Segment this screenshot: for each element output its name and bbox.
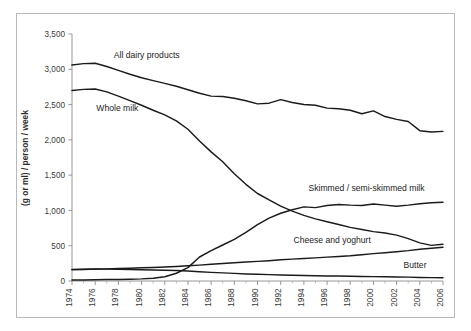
y-tick-label: 500 [51, 242, 65, 251]
x-tick-label: 1996 [320, 288, 329, 307]
y-axis-title: (g or ml) / person / week [20, 110, 30, 206]
chart-figure: 05001,0001,5002,0002,5003,0003,500 19741… [0, 0, 471, 331]
y-axis-ticks: 05001,0001,5002,0002,5003,0003,500 [45, 30, 73, 286]
y-tick-label: 0 [60, 277, 65, 286]
y-tick-label: 1,500 [45, 171, 66, 180]
y-tick-label: 2,500 [45, 101, 66, 110]
data-series [72, 63, 443, 280]
x-tick-label: 1988 [227, 288, 236, 307]
x-tick-label: 1982 [158, 288, 167, 307]
x-axis-ticks: 1974197619781980198219841986198819901992… [65, 281, 445, 307]
x-tick-label: 1974 [65, 288, 74, 307]
x-tick-label: 2000 [366, 288, 375, 307]
x-tick-label: 2006 [436, 288, 445, 307]
series-label: Butter [404, 260, 427, 270]
y-tick-label: 3,500 [45, 30, 66, 39]
series-label: Whole milk [96, 103, 139, 113]
x-tick-label: 2004 [413, 288, 422, 307]
x-tick-label: 2002 [390, 288, 399, 307]
x-tick-label: 1992 [274, 288, 283, 307]
series-labels: All dairy productsWhole milkSkimmed / se… [96, 50, 426, 270]
x-tick-label: 1984 [181, 288, 190, 307]
x-tick-label: 1980 [135, 288, 144, 307]
y-tick-label: 1,000 [45, 207, 66, 216]
x-tick-label: 1976 [88, 288, 97, 307]
x-tick-label: 1986 [204, 288, 213, 307]
x-tick-label: 1994 [297, 288, 306, 307]
x-tick-label: 1978 [111, 288, 120, 307]
series-line [72, 247, 443, 269]
series-label: Cheese and yoghurt [293, 235, 371, 245]
x-tick-label: 1990 [251, 288, 260, 307]
y-tick-label: 3,000 [45, 65, 66, 74]
axes [72, 34, 443, 281]
series-label: Skimmed / semi-skimmed milk [309, 183, 426, 193]
series-line [72, 269, 443, 278]
series-label: All dairy products [114, 50, 180, 60]
y-tick-label: 2,000 [45, 136, 66, 145]
x-tick-label: 1998 [343, 288, 352, 307]
series-line [72, 63, 443, 132]
dairy-consumption-line-chart: 05001,0001,5002,0002,5003,0003,500 19741… [0, 0, 471, 331]
